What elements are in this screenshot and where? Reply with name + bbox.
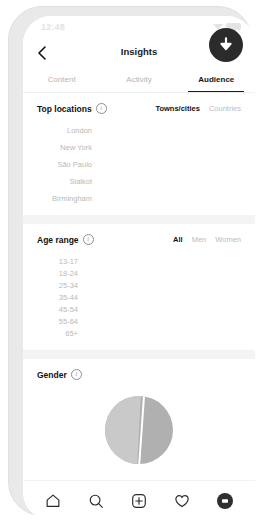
bar-label: Sialkot	[37, 177, 99, 186]
toggle-men[interactable]: Men	[192, 235, 207, 244]
bar-track	[99, 177, 241, 186]
bar-label: 45-54	[37, 305, 85, 314]
toggle-countries[interactable]: Countries	[209, 104, 241, 113]
info-icon[interactable]: i	[96, 103, 107, 114]
bar-track	[99, 126, 241, 135]
gender-title-wrap: Gender i	[37, 369, 82, 380]
bar-track	[85, 269, 241, 278]
gender-chart	[37, 392, 241, 464]
age-range-section: Age range i All Men Women 13-17 18-24	[23, 224, 255, 350]
bar-label: Birmingham	[37, 194, 99, 203]
toggle-towns-cities[interactable]: Towns/cities	[155, 104, 199, 113]
age-range-header: Age range i All Men Women	[37, 234, 241, 245]
bar-track	[85, 293, 241, 302]
avatar	[217, 493, 233, 509]
bar-label: 35-44	[37, 293, 85, 302]
download-arrow-icon[interactable]	[209, 28, 243, 62]
bar-row: Birmingham	[37, 194, 241, 203]
pie-chart	[105, 396, 173, 464]
profile-avatar-icon[interactable]	[215, 491, 235, 511]
bar-row: Sialkot	[37, 177, 241, 186]
bar-row: 35-44	[37, 293, 241, 302]
bar-row: 13-17	[37, 257, 241, 266]
top-locations-title: Top locations	[37, 104, 92, 114]
bar-track	[99, 160, 241, 169]
bar-track	[85, 305, 241, 314]
bar-label: 55-64	[37, 317, 85, 326]
search-icon[interactable]	[86, 491, 106, 511]
heart-icon[interactable]	[172, 491, 192, 511]
top-locations-header: Top locations i Towns/cities Countries	[37, 103, 241, 114]
age-range-title: Age range	[37, 235, 79, 245]
bar-row: New York	[37, 143, 241, 152]
bar-track	[99, 143, 241, 152]
bar-track	[85, 317, 241, 326]
section-divider	[23, 350, 255, 359]
bar-label: São Paulo	[37, 160, 99, 169]
bottom-nav-bar	[23, 480, 255, 520]
toggle-women[interactable]: Women	[215, 235, 241, 244]
section-divider	[23, 215, 255, 224]
info-icon[interactable]: i	[71, 369, 82, 380]
bar-track	[85, 329, 241, 338]
locations-toggle-group: Towns/cities Countries	[155, 104, 241, 113]
bar-label: 25-34	[37, 281, 85, 290]
bar-row: 55-64	[37, 317, 241, 326]
add-post-icon[interactable]	[129, 491, 149, 511]
top-locations-section: Top locations i Towns/cities Countries L…	[23, 93, 255, 215]
bar-label: 18-24	[37, 269, 85, 278]
bar-row: 65+	[37, 329, 241, 338]
bar-label: 13-17	[37, 257, 85, 266]
home-icon[interactable]	[43, 491, 63, 511]
bar-row: São Paulo	[37, 160, 241, 169]
tab-content[interactable]: Content	[23, 70, 100, 92]
tab-bar: Content Activity Audience	[23, 70, 255, 93]
bar-row: 45-54	[37, 305, 241, 314]
top-locations-title-wrap: Top locations i	[37, 103, 107, 114]
phone-screen: 12:48 Insights Content Activity Audience	[23, 16, 255, 520]
bar-row: 18-24	[37, 269, 241, 278]
tab-audience[interactable]: Audience	[178, 70, 255, 92]
bar-label: New York	[37, 143, 99, 152]
age-range-chart: 13-17 18-24 25-34	[37, 257, 241, 338]
phone-frame: 12:48 Insights Content Activity Audience	[8, 6, 252, 516]
bar-row: 25-34	[37, 281, 241, 290]
gender-header: Gender i	[37, 369, 241, 380]
bar-row: London	[37, 126, 241, 135]
info-icon[interactable]: i	[83, 234, 94, 245]
age-range-title-wrap: Age range i	[37, 234, 94, 245]
gender-title: Gender	[37, 370, 67, 380]
status-time: 12:48	[41, 22, 65, 32]
bar-label: 65+	[37, 329, 85, 338]
bar-track	[85, 281, 241, 290]
top-locations-chart: London New York São Paulo	[37, 126, 241, 203]
bar-track	[85, 257, 241, 266]
pie-slice-a	[105, 396, 141, 464]
toggle-all[interactable]: All	[173, 235, 183, 244]
bar-track	[99, 194, 241, 203]
gender-filter-toggle-group: All Men Women	[173, 235, 241, 244]
tab-activity[interactable]: Activity	[100, 70, 177, 92]
gender-section: Gender i	[23, 359, 255, 476]
bar-label: London	[37, 126, 99, 135]
